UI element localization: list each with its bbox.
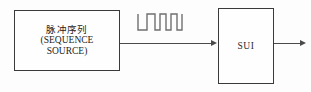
pulse-waveform-icon — [136, 12, 186, 36]
sequence-source-label-english-line2: SOURCE) — [47, 46, 88, 57]
connector-source-to-sui — [120, 43, 212, 44]
arrowhead-sui-output — [300, 40, 306, 46]
sui-label: SUI — [237, 41, 254, 51]
diagram-canvas: 脉冲序列 (SEQUENCE SOURCE) SUI — [0, 0, 311, 92]
block-sui: SUI — [218, 8, 274, 84]
connector-sui-output — [274, 43, 301, 44]
arrowhead-into-sui — [211, 40, 217, 46]
block-sequence-source: 脉冲序列 (SEQUENCE SOURCE) — [14, 10, 120, 71]
sequence-source-label-chinese: 脉冲序列 — [46, 24, 87, 35]
sequence-source-label-english-line1: (SEQUENCE — [41, 35, 94, 46]
